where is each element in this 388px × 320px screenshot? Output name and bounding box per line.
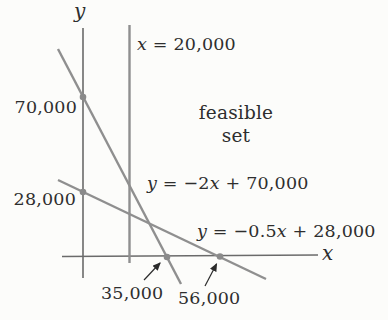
- arrow-to-56000-icon: [205, 264, 217, 286]
- y-intercept-28000-label: 28,000: [8, 189, 76, 209]
- vertical-line-equation-tail: = 20,000: [147, 34, 236, 54]
- x-axis-label: x: [322, 243, 333, 263]
- x-intercept-56000-label: 56,000: [178, 288, 240, 308]
- feasible-set-label: feasible set: [194, 101, 278, 147]
- steep-eq-mid: = −2: [157, 173, 210, 193]
- feasible-set-label-line1: feasible: [194, 101, 278, 124]
- shallow-eq-var: x: [277, 221, 287, 241]
- y-axis-label: y: [74, 1, 86, 21]
- x-intercept-35000-dot: [164, 254, 171, 261]
- shallow-eq-lhs: y: [197, 221, 207, 241]
- shallow-eq-tail: + 28,000: [287, 221, 376, 241]
- x-axis-line: [62, 255, 318, 257]
- feasible-set-figure: y x x = 20,000 70,000 28,000 feasible se…: [0, 0, 388, 320]
- vertical-line-equation-var: x: [137, 34, 147, 54]
- steep-constraint-line: [58, 49, 181, 284]
- steep-eq-var: x: [210, 173, 220, 193]
- feasible-set-label-line2: set: [194, 124, 278, 147]
- x-intercept-35000-label: 35,000: [101, 283, 163, 303]
- steep-eq-lhs: y: [147, 173, 157, 193]
- y-intercept-28000-dot: [80, 189, 87, 196]
- steep-eq-tail: + 70,000: [220, 173, 309, 193]
- arrow-to-35000-icon: [144, 263, 160, 280]
- y-intercept-70000-dot: [80, 94, 87, 101]
- shallow-line-equation-label: y = −0.5x + 28,000: [197, 221, 376, 241]
- steep-line-equation-label: y = −2x + 70,000: [147, 173, 309, 193]
- shallow-eq-mid: = −0.5: [207, 221, 277, 241]
- vertical-line-equation-label: x = 20,000: [137, 34, 236, 54]
- x-intercept-56000-dot: [217, 253, 224, 260]
- y-intercept-70000-label: 70,000: [9, 97, 77, 117]
